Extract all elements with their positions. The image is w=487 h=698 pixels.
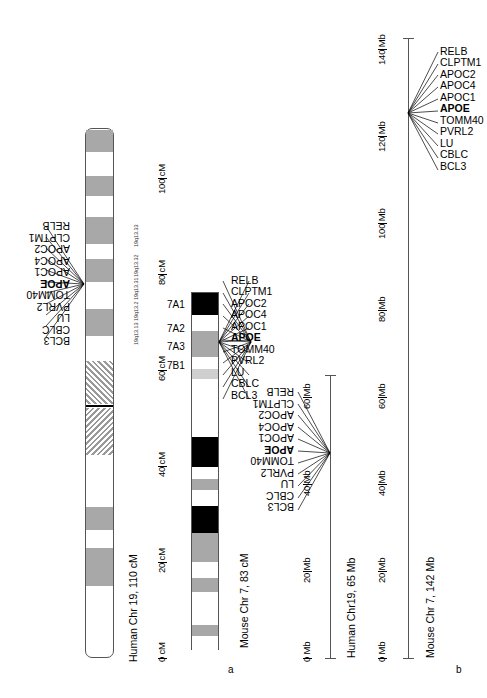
cytoband-label: 19q13.31 (133, 278, 139, 300)
gene-label: TOMM40 (14, 289, 70, 300)
chromosome-band (192, 490, 218, 506)
mouse-chr7-cm-caption: Mouse Chr 7, 83 cM (238, 553, 250, 648)
axis-tick-label: 120 Mb (376, 122, 387, 153)
gene-label: CLPTM1 (14, 231, 70, 242)
human-chr19-caption: Human Chr 19, 110 cM (127, 554, 139, 662)
chromosome-band (192, 315, 218, 331)
axis-tick-label: 20 Mb (301, 558, 312, 583)
axis-tick-label: 100 Mb (376, 209, 387, 240)
chromosome-band (86, 507, 113, 530)
gene-label: BCL3 (14, 335, 70, 346)
bar-cap-top (325, 375, 336, 376)
gene-label: PVRL2 (14, 300, 70, 311)
chromosome-band (192, 293, 218, 315)
gene-label: RELB (238, 386, 294, 397)
gene-label-apoe: APOE (238, 443, 294, 454)
gene-label: APOC4 (14, 254, 70, 265)
gene-label: CLPTM1 (238, 397, 294, 408)
gene-label: PVRL2 (440, 126, 484, 137)
gene-label: APOC2 (14, 243, 70, 254)
chromosome-band (192, 506, 218, 533)
chromosome-band (192, 636, 218, 650)
axis-tick-label: 40 cM (156, 452, 167, 477)
gene-label: PVRL2 (231, 355, 275, 366)
human-chr19-gene-list: BCL3 CBLC LU PVRL2 TOMM40 APOE APOC1 APO… (14, 220, 70, 346)
chromosome-band (192, 625, 218, 636)
gene-label: APOC1 (238, 432, 294, 443)
chromosome-band (192, 331, 218, 357)
axis-tick-label: 140 Mb (376, 35, 387, 66)
gene-label-apoe: APOE (231, 332, 275, 343)
mouse-band-label: 7A1 (167, 299, 185, 310)
mouse-chr7-mb-gene-list: RELB CLPTM1 APOC2 APOC4 APOC1 APOE TOMM4… (440, 46, 484, 172)
chromosome-band (192, 592, 218, 625)
chromosome-band (192, 479, 218, 490)
mouse-band-label: 7B1 (167, 360, 185, 371)
gene-label: BCL3 (440, 161, 484, 172)
axis-tick-label: 60 Mb (376, 384, 387, 409)
figure-canvas: 19q13.33 19q13.32 19q13.31 19q13.2 19q13… (0, 0, 487, 698)
axis-tick-label: 80 cM (156, 260, 167, 285)
chromosome-band (192, 562, 218, 578)
axis-tick-label: 20 cM (156, 548, 167, 573)
centromere-band (86, 361, 113, 404)
chromosome-band (86, 259, 113, 282)
mouse-band-label: 7A2 (167, 323, 185, 334)
mouse-chr7-gene-list: RELB CLPTM1 APOC2 APOC4 APOC1 APOE TOMM4… (231, 275, 275, 401)
chromosome-band (86, 548, 113, 586)
chromosome-band (192, 357, 218, 369)
mouse-chr7-mb-gene-fan (408, 47, 440, 179)
gene-label: APOC2 (238, 409, 294, 420)
chromosome-band (86, 309, 113, 336)
mouse-chr7-mb-caption: Mouse Chr 7, 142 Mb (424, 557, 436, 658)
cytoband-label: 19q13.32 (133, 255, 139, 277)
chromosome-band (86, 217, 113, 244)
centromere-line (86, 405, 113, 407)
gene-label: APOC4 (238, 420, 294, 431)
bar-cap-top (403, 38, 414, 39)
axis-tick-label: 0 Mb (376, 642, 387, 662)
centromere-band (86, 408, 113, 455)
cytoband-label: 19q13.13 (133, 323, 139, 345)
chromosome-band (192, 369, 218, 379)
cytoband-label: 19q13.2 (133, 302, 139, 322)
gene-label: TOMM40 (238, 455, 294, 466)
chromosome-band (192, 379, 218, 437)
panel-label-a: a (228, 664, 234, 675)
gene-label: RELB (14, 220, 70, 231)
mouse-band-label: 7A3 (167, 341, 185, 352)
gene-label: CBLC (14, 323, 70, 334)
axis-tick-label: 40 Mb (376, 471, 387, 496)
chromosome-band (192, 437, 218, 467)
gene-label-apoe: APOE (14, 277, 70, 288)
gene-label: LU (14, 312, 70, 323)
axis-tick-label: 0 Mb (301, 642, 312, 662)
gene-label: CBLC (440, 149, 484, 160)
gene-label-apoe: APOE (440, 103, 484, 114)
chromosome-band (192, 533, 218, 562)
human-chr19-mb-gene-list: BCL3 CBLC LU PVRL2 TOMM40 APOE APOC1 APO… (238, 386, 294, 512)
axis-tick-label: 100 cM (156, 164, 167, 194)
chromosome-band (86, 130, 113, 152)
human-chr19-mb-caption: Human Chr19, 65 Mb (345, 558, 357, 658)
panel-label-b: b (456, 664, 462, 675)
mouse-chr7-ideogram (191, 292, 219, 650)
gene-label: PVRL2 (238, 466, 294, 477)
chromosome-band (86, 176, 113, 196)
gene-label: BCL3 (238, 501, 294, 512)
axis-tick-label: 0 cM (156, 642, 167, 662)
human-chr19-ideogram (85, 128, 114, 658)
axis-tick-label: 20 Mb (376, 558, 387, 583)
bar-cap-bottom (403, 658, 414, 659)
gene-label: LU (238, 478, 294, 489)
bar-cap-bottom (325, 658, 336, 659)
gene-label: APOC1 (14, 266, 70, 277)
chromosome-band (192, 578, 218, 592)
axis-tick-label: 60 cM (156, 356, 167, 381)
human-chr19-length-bar (330, 375, 331, 659)
axis-tick-label: 80 Mb (376, 297, 387, 322)
cytoband-label: 19q13.33 (133, 225, 139, 247)
gene-label: CBLC (238, 489, 294, 500)
human-chr19-mb-gene-fan (294, 387, 330, 519)
chromosome-band (192, 467, 218, 479)
